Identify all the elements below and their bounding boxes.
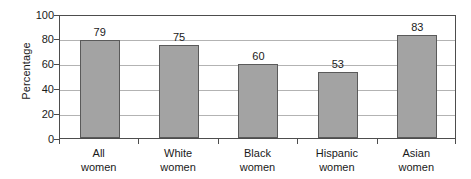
category-label: Hispanicwomen [297, 146, 376, 174]
bar-slot: 83 [378, 16, 457, 138]
bar[interactable] [318, 72, 358, 138]
bar-value-label: 60 [252, 51, 264, 62]
category-label: Asianwomen [377, 146, 456, 174]
bar-value-label: 53 [332, 59, 344, 70]
category-label-line: Black [218, 146, 297, 160]
bar-value-label: 83 [411, 22, 423, 33]
category-label-line: Hispanic [297, 146, 376, 160]
x-tick-mark [455, 139, 456, 144]
bar[interactable] [80, 40, 120, 138]
category-label: Allwomen [59, 146, 138, 174]
x-tick-mark [59, 139, 60, 144]
category-label: Whitewomen [138, 146, 217, 174]
x-tick-mark [377, 139, 378, 144]
bar-value-label: 79 [94, 27, 106, 38]
bar-chart: Percentage 020406080100 7975605383 Allwo… [0, 0, 471, 179]
bar-slot: 79 [60, 16, 139, 138]
y-tick-label: 80 [33, 34, 54, 45]
category-label-line: women [297, 160, 376, 174]
category-label-line: White [138, 146, 217, 160]
x-tick-mark [297, 139, 298, 144]
plot-area: 7975605383 [59, 15, 456, 139]
category-label-line: women [59, 160, 138, 174]
category-label-line: All [59, 146, 138, 160]
category-label-line: women [218, 160, 297, 174]
x-axis-category-labels: AllwomenWhitewomenBlackwomenHispanicwome… [59, 146, 456, 179]
category-label-line: women [138, 160, 217, 174]
bar-slot: 75 [139, 16, 218, 138]
x-tick-mark [218, 139, 219, 144]
y-tick-label: 100 [33, 10, 54, 21]
y-tick-label: 20 [33, 109, 54, 120]
y-axis-title: Percentage [19, 1, 33, 141]
bar[interactable] [238, 64, 278, 138]
y-axis-tick-labels: 020406080100 [33, 0, 54, 179]
x-axis-ticks [59, 139, 456, 145]
y-tick-label: 60 [33, 59, 54, 70]
bars-layer: 7975605383 [60, 16, 455, 138]
bar-value-label: 75 [173, 32, 185, 43]
bar[interactable] [397, 35, 437, 138]
y-tick-label: 0 [33, 134, 54, 145]
bar-slot: 60 [219, 16, 298, 138]
category-label-line: women [377, 160, 456, 174]
x-tick-mark [138, 139, 139, 144]
bar[interactable] [159, 45, 199, 138]
category-label: Blackwomen [218, 146, 297, 174]
category-label-line: Asian [377, 146, 456, 160]
y-tick-label: 40 [33, 84, 54, 95]
bar-slot: 53 [298, 16, 377, 138]
